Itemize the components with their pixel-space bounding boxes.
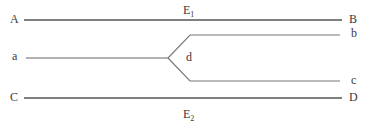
label-E2-sub: 2: [190, 114, 194, 123]
label-E2: E2: [183, 108, 194, 120]
label-C: C: [10, 91, 18, 103]
label-E1: E1: [183, 4, 194, 16]
label-D: D: [349, 91, 358, 103]
label-E1-sub: 1: [190, 10, 194, 19]
label-a: a: [12, 50, 17, 62]
branch-upper-b: [168, 35, 340, 58]
label-b: b: [351, 27, 357, 39]
label-B: B: [349, 13, 357, 25]
label-c: c: [351, 74, 356, 86]
label-d: d: [186, 51, 192, 63]
branch-lower-c: [168, 58, 340, 81]
label-A: A: [10, 13, 19, 25]
